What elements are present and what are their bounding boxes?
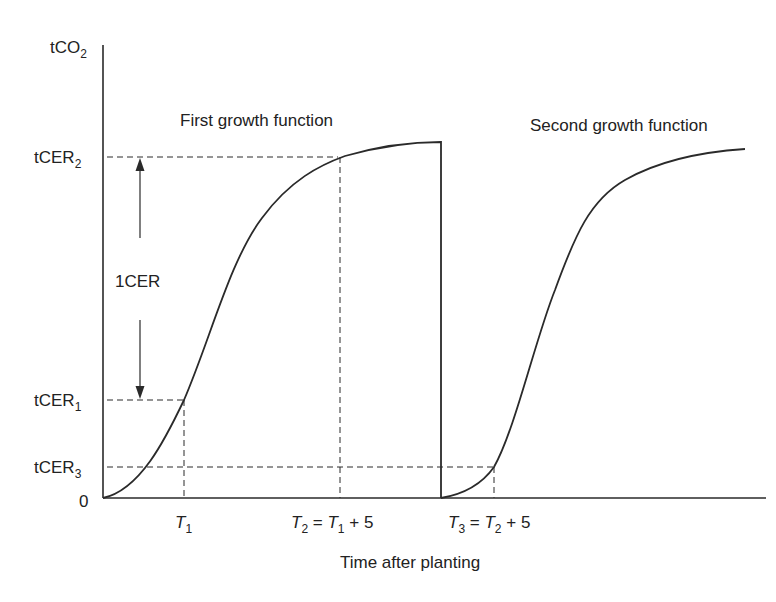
tcer3-label: tCER3 xyxy=(34,458,82,481)
arrow-down-icon xyxy=(136,386,145,399)
first-growth-curve xyxy=(103,142,441,498)
first-curve-label: First growth function xyxy=(180,111,333,130)
second-growth-curve xyxy=(441,149,745,498)
t2-label: T2 = T1 + 5 xyxy=(291,513,373,536)
second-curve-label: Second growth function xyxy=(530,116,708,135)
origin-label: 0 xyxy=(79,492,88,511)
y-axis-label: tCO2 xyxy=(50,38,87,61)
x-axis-title: Time after planting xyxy=(340,553,480,572)
t3-label: T3 = T2 + 5 xyxy=(448,513,530,536)
tcer1-label: tCER1 xyxy=(34,391,82,414)
t1-label: T1 xyxy=(175,513,192,536)
arrow-up-icon xyxy=(136,158,145,171)
span-label: 1CER xyxy=(115,272,160,291)
growth-function-diagram: tCO2 tCER2 tCER1 tCER3 0 1CER First grow… xyxy=(0,0,776,602)
tcer2-label: tCER2 xyxy=(34,148,82,171)
